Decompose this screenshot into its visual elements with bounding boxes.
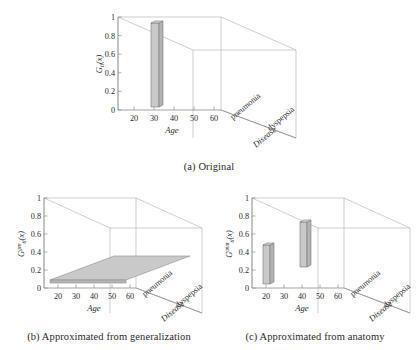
x-tick-label: 40	[90, 292, 98, 301]
z-category-label: pneumonia	[349, 268, 383, 299]
y-tick-label: 0.4	[105, 69, 115, 78]
x-tick-label: 50	[108, 292, 116, 301]
y-tick-label: 0.6	[31, 230, 41, 239]
axes-frame-a	[118, 17, 296, 138]
x-tick-label: 40	[298, 292, 306, 301]
y-tick-label: 1	[111, 13, 115, 22]
bar-c-pneumonia-30	[263, 243, 274, 284]
ylabel-arg: (x)	[17, 231, 26, 241]
x-tick-label: 60	[334, 292, 342, 301]
y-tick-label: 1	[37, 194, 41, 203]
y-tick-label: 0.6	[105, 50, 115, 59]
z-axis-title: Disease	[250, 124, 278, 150]
svg-text:Gti(x): Gti(x)	[96, 55, 105, 74]
y-axis-b: 1 0.8 0.6 0.4 0.2 0	[31, 194, 48, 293]
axes-frame-b	[44, 198, 202, 313]
z-axis-c: pneumonia dyspepsia Disease	[344, 268, 412, 323]
y-axis-title-a: Gti(x)	[96, 55, 105, 74]
x-axis-title: Age	[294, 303, 309, 313]
y-tick-label: 0.2	[105, 87, 115, 96]
svg-text:Ganatti(x): Ganatti(x)	[224, 230, 235, 258]
x-tick-label: 30	[72, 292, 80, 301]
y-tick-label: 0.2	[239, 266, 249, 275]
y-tick-label: 0	[111, 106, 115, 115]
plot-b-svg: 1 0.8 0.6 0.4 0.2 0 Ggenti(x) 20 3	[4, 188, 209, 323]
y-tick-label: 0.6	[239, 230, 249, 239]
svg-text:Ggenti(x): Ggenti(x)	[16, 231, 27, 257]
y-tick-label: 0.8	[31, 212, 41, 221]
x-tick-label: 30	[280, 292, 288, 301]
ylabel-arg: (x)	[96, 55, 104, 65]
y-tick-label: 0.8	[105, 32, 115, 41]
caption-b: (b) Approximated from generalization	[2, 331, 216, 342]
x-axis-title: Age	[164, 125, 179, 135]
x-axis-b: 20 30 40 50 60 Age	[44, 285, 136, 314]
y-tick-label: 0.4	[31, 248, 41, 257]
y-axis-a: 1 0.8 0.6 0.4 0.2 0	[105, 13, 122, 115]
x-tick-label: 50	[316, 292, 324, 301]
x-tick-label: 20	[130, 114, 138, 123]
y-tick-label: 0.4	[239, 248, 249, 257]
x-tick-label: 20	[54, 292, 62, 301]
caption-c: (c) Approximated from anatomy	[212, 331, 418, 342]
x-axis-a: 20 30 40 50 60 Age	[118, 107, 221, 136]
y-tick-label: 1	[245, 194, 249, 203]
y-axis-c: 1 0.8 0.6 0.4 0.2 0	[239, 194, 256, 293]
y-axis-title-c: Ganatti(x)	[224, 230, 235, 258]
panel-a-original: 1 0.8 0.6 0.4 0.2 0 Gti(x) 2	[96, 2, 326, 160]
x-tick-label: 60	[210, 114, 218, 123]
x-tick-label: 50	[190, 114, 198, 123]
x-tick-label: 30	[150, 114, 158, 123]
plot-c-svg: 1 0.8 0.6 0.4 0.2 0 Ganatti(x) 20	[212, 188, 417, 323]
z-axis-a: pneumonia dyspepsia Disease	[221, 91, 296, 150]
y-axis-title-b: Ggenti(x)	[16, 231, 27, 257]
y-tick-label: 0.2	[31, 266, 41, 275]
z-axis-b: pneumonia dyspepsia Disease	[136, 268, 204, 323]
x-axis-c: 20 30 40 50 60 Age	[252, 285, 344, 314]
bar-c-dyspepsia-45	[300, 220, 311, 267]
y-tick-label: 0.8	[239, 212, 249, 221]
axes-frame-c	[252, 198, 410, 313]
x-axis-title: Age	[86, 303, 101, 313]
plot-a-svg: 1 0.8 0.6 0.4 0.2 0 Gti(x) 2	[96, 2, 326, 160]
x-tick-label: 60	[126, 292, 134, 301]
caption-a: (a) Original	[0, 161, 418, 172]
y-tick-label: 0	[245, 284, 249, 293]
z-category-label: pneumonia	[229, 91, 263, 122]
panel-c-anatomy: 1 0.8 0.6 0.4 0.2 0 Ganatti(x) 20	[212, 188, 417, 323]
y-tick-label: 0	[37, 284, 41, 293]
ylabel-arg: (x)	[225, 230, 234, 240]
panel-b-generalization: 1 0.8 0.6 0.4 0.2 0 Ggenti(x) 20 3	[4, 188, 209, 323]
x-tick-label: 40	[170, 114, 178, 123]
figure-container: 1 0.8 0.6 0.4 0.2 0 Gti(x) 2	[0, 0, 418, 350]
bar-a-pneumonia-30	[151, 21, 163, 107]
x-tick-label: 20	[262, 292, 270, 301]
